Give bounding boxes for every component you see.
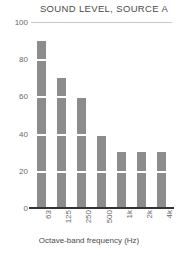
bar: [157, 152, 166, 208]
gridline-60: [31, 96, 172, 98]
bars-layer: [31, 22, 172, 208]
y-tick-label: 60: [4, 92, 28, 101]
chart-title: SOUND LEVEL, SOURCE A: [34, 3, 174, 14]
y-tick-label: 100: [4, 18, 28, 27]
bar: [77, 96, 86, 208]
gridline-80: [31, 59, 172, 61]
gridline-20: [31, 171, 172, 173]
x-tick-label: 4k: [165, 210, 174, 218]
y-tick-label: 20: [4, 166, 28, 175]
x-tick-label: 63: [44, 210, 53, 219]
x-tick-label: 125: [64, 210, 73, 223]
bar: [37, 41, 46, 208]
x-tick-label: 250: [84, 210, 93, 223]
plot-area: [31, 22, 172, 208]
bar: [117, 152, 126, 208]
bar: [137, 152, 146, 208]
x-axis-baseline: [29, 207, 174, 209]
y-tick-label: 80: [4, 55, 28, 64]
y-tick-label: 40: [4, 129, 28, 138]
y-tick-label: 0: [4, 204, 28, 213]
x-tick-label: 2k: [145, 210, 154, 218]
x-axis-title: Octave-band frequency (Hz): [0, 236, 178, 245]
x-tick-label: 500: [105, 210, 114, 223]
gridline-40: [31, 134, 172, 136]
y-axis: 100 80 60 40 20 0: [0, 22, 28, 208]
sound-level-bar-chart: SOUND LEVEL, SOURCE A 100 80 60 40 20 0 …: [0, 0, 178, 260]
x-axis: 631252505001k2k4k: [31, 210, 172, 234]
x-tick-label: 1k: [125, 210, 134, 218]
